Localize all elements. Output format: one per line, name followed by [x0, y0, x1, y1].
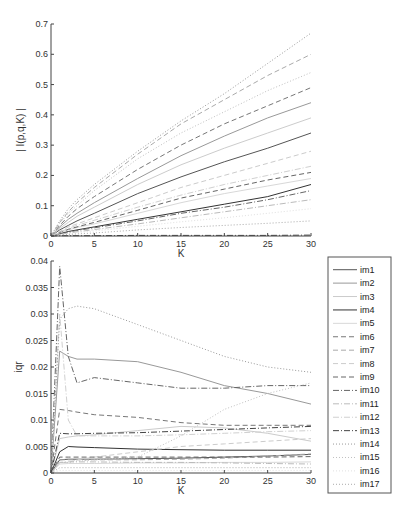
y-tick-label: 0.6	[35, 49, 48, 59]
x-tick-label: 10	[133, 476, 143, 486]
bottom-plot: 05101520253000.0050.010.0150.020.0250.03…	[13, 256, 316, 496]
y-tick-label: 0.1	[35, 201, 48, 211]
series-im4	[51, 185, 311, 237]
y-tick-label: 0.3	[35, 140, 48, 150]
series-im7	[51, 54, 311, 236]
series-im4	[51, 447, 311, 474]
legend-label: im16	[360, 466, 380, 476]
y-tick-label: 0.015	[25, 389, 48, 399]
legend-label: im3	[360, 292, 375, 302]
y-axis-label: | I(p,q,K) |	[15, 108, 26, 152]
x-tick-label: 5	[92, 476, 97, 486]
x-tick-label: 0	[48, 239, 53, 249]
legend-label: im11	[360, 399, 379, 409]
series-im2	[51, 103, 311, 236]
y-tick-label: 0.5	[35, 80, 48, 90]
x-tick-label: 20	[219, 476, 229, 486]
legend-label: im14	[360, 439, 380, 449]
legend-label: im6	[360, 332, 375, 342]
series-im2	[51, 351, 311, 473]
x-tick-label: 10	[133, 239, 143, 249]
y-tick-label: 0	[43, 468, 48, 478]
legend-label: im4	[360, 305, 375, 315]
y-tick-label: 0.005	[25, 442, 48, 452]
y-tick-label: 0.035	[25, 283, 48, 293]
series-im12	[51, 314, 311, 473]
y-tick-label: 0.4	[35, 110, 48, 120]
legend-label: im7	[360, 345, 375, 355]
legend-label: im1	[360, 265, 375, 275]
x-tick-label: 25	[263, 476, 273, 486]
x-tick-label: 30	[306, 239, 316, 249]
legend-label: im9	[360, 372, 375, 382]
top-plot: 05101520253000.10.20.30.40.50.60.7K| I(p…	[15, 19, 316, 259]
series-im10	[51, 266, 311, 473]
series-im16	[51, 209, 311, 236]
y-axis-label: iqr	[13, 361, 24, 373]
legend-label: im5	[360, 318, 375, 328]
x-axis-label: K	[178, 248, 185, 259]
legend-label: im12	[360, 412, 380, 422]
x-tick-label: 30	[306, 476, 316, 486]
y-tick-label: 0.2	[35, 170, 48, 180]
y-tick-label: 0.7	[35, 19, 48, 29]
x-axis-label: K	[178, 485, 185, 496]
y-tick-label: 0	[43, 231, 48, 241]
y-tick-label: 0.03	[30, 309, 48, 319]
x-tick-label: 0	[48, 476, 53, 486]
legend-label: im8	[360, 359, 375, 369]
series-im9	[51, 172, 311, 236]
legend-label: im2	[360, 278, 375, 288]
series-im1	[51, 133, 311, 236]
legend: im1im2im3im4im5im6im7im8im9im10im11im12i…	[328, 257, 391, 493]
y-tick-label: 0.01	[30, 415, 48, 425]
figure: 05101520253000.10.20.30.40.50.60.7K| I(p…	[0, 0, 398, 513]
series-im14	[51, 306, 311, 473]
legend-label: im17	[360, 479, 380, 489]
y-tick-label: 0.02	[30, 362, 48, 372]
x-tick-label: 25	[263, 239, 273, 249]
legend-label: im10	[360, 385, 380, 395]
legend-label: im15	[360, 452, 380, 462]
x-tick-label: 20	[219, 239, 229, 249]
y-tick-label: 0.025	[25, 336, 48, 346]
legend-label: im13	[360, 426, 380, 436]
x-tick-label: 5	[92, 239, 97, 249]
y-tick-label: 0.04	[30, 256, 48, 266]
